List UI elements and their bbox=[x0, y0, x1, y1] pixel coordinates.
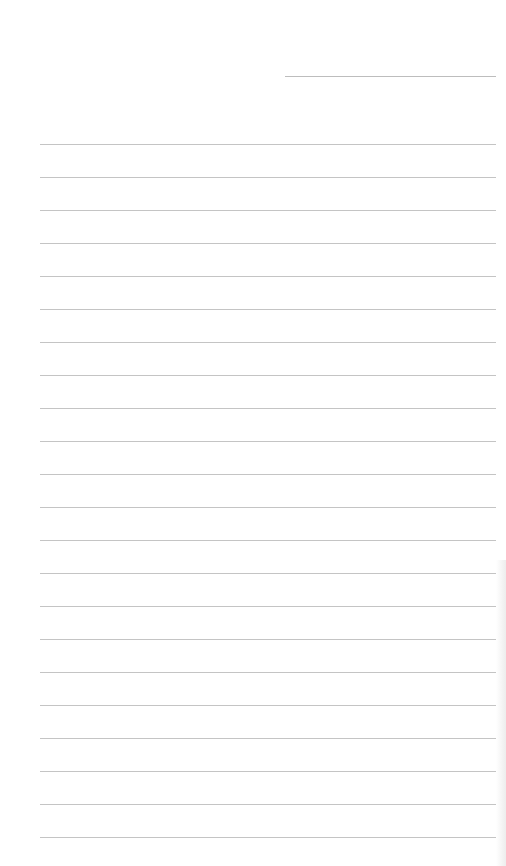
ruled-line bbox=[40, 507, 496, 508]
ruled-line bbox=[40, 342, 496, 343]
ruled-line bbox=[40, 408, 496, 409]
ruled-line bbox=[40, 573, 496, 574]
ruled-line bbox=[40, 276, 496, 277]
ruled-line bbox=[40, 309, 496, 310]
ruled-line bbox=[40, 606, 496, 607]
ruled-line bbox=[40, 639, 496, 640]
ruled-line bbox=[40, 771, 496, 772]
ruled-line bbox=[40, 705, 496, 706]
ruled-line bbox=[40, 738, 496, 739]
ruled-line bbox=[40, 672, 496, 673]
ruled-line bbox=[40, 177, 496, 178]
ruled-line bbox=[40, 210, 496, 211]
ruled-line bbox=[40, 474, 496, 475]
lined-paper-page bbox=[0, 0, 506, 866]
ruled-line bbox=[40, 243, 496, 244]
ruled-line bbox=[40, 441, 496, 442]
ruled-line bbox=[40, 144, 496, 145]
header-writing-line bbox=[285, 76, 496, 77]
ruled-line bbox=[40, 837, 496, 838]
ruled-line bbox=[40, 375, 496, 376]
page-edge-shadow bbox=[496, 560, 506, 866]
ruled-line bbox=[40, 804, 496, 805]
ruled-line bbox=[40, 540, 496, 541]
